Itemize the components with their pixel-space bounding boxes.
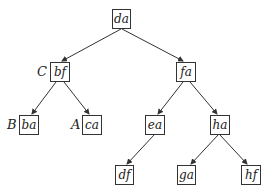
- node-ga: ga: [177, 165, 196, 185]
- node-fa: fa: [176, 62, 196, 82]
- edge-da-bf: [62, 29, 121, 61]
- edge-bf-ba: [32, 82, 56, 114]
- node-bf: bf: [50, 62, 70, 82]
- edge-ha-hf: [220, 135, 247, 164]
- node-tag-b: B: [7, 117, 17, 132]
- edge-fa-ea: [158, 82, 183, 114]
- node-hf: hf: [241, 165, 261, 185]
- node-ha: ha: [210, 115, 230, 135]
- node-tag-c: C: [37, 64, 47, 79]
- node-ca: ca: [82, 115, 102, 135]
- tree-edges: [0, 0, 265, 189]
- node-ba: ba: [19, 115, 39, 135]
- edge-ea-df: [127, 135, 154, 164]
- edge-bf-ca: [64, 82, 89, 114]
- edge-da-fa: [122, 29, 183, 61]
- node-df: df: [115, 165, 134, 185]
- node-tag-a: A: [71, 117, 80, 132]
- edge-fa-ha: [190, 82, 217, 114]
- edge-ha-ga: [191, 135, 218, 164]
- node-da: da: [112, 9, 131, 29]
- node-ea: ea: [145, 115, 165, 135]
